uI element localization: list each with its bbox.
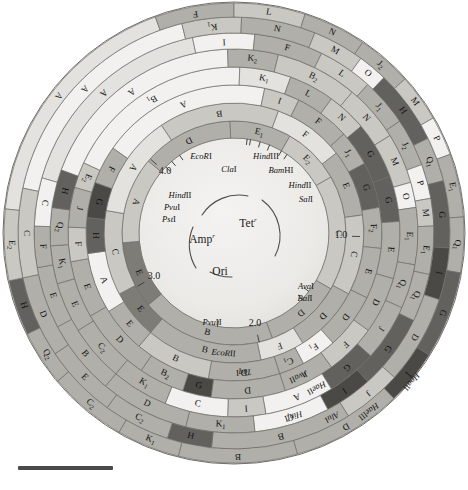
restriction-site-sali: SalI — [299, 194, 313, 204]
ring-segment-label: B — [235, 452, 241, 462]
plasmid-map-figure: DE1E2CDBEABFECDFBECAAIFJ1GF2EDF1C1DBEAHG… — [0, 0, 468, 490]
restriction-site-bamhi: BamHI — [269, 165, 294, 175]
ring-segment-label: G — [437, 211, 448, 219]
restriction-site-hindii: HindII — [168, 190, 192, 200]
ring-segment-label: D — [244, 385, 252, 396]
gene-label-amp: Ampr — [189, 232, 215, 246]
coordinate-tick-2-0: 2.0 — [249, 317, 262, 328]
restriction-site-bali: BalI — [298, 293, 313, 303]
restriction-site-ecori: EcoRI — [189, 151, 212, 161]
scale-bar — [18, 466, 113, 470]
ring-segment-label: F — [38, 243, 48, 249]
restriction-site-pvui: PvuI — [163, 202, 180, 212]
restriction-site-psti: PstI — [161, 214, 176, 224]
restriction-site-hindiii: HindIII — [252, 151, 279, 161]
coordinate-tick-1-0: 1.0 — [335, 229, 348, 240]
enzyme-ring-name-taqi: TaqI — [236, 367, 252, 378]
restriction-site-hindii: HindII — [288, 180, 312, 190]
plasmid-map-svg: DE1E2CDBEABFECDFBECAAIFJ1GF2EDF1C1DBEAHG… — [0, 0, 468, 490]
restriction-site-clai: ClaI — [221, 164, 236, 174]
ring-segment-label: C — [22, 230, 32, 236]
ring-segment-label: H — [91, 232, 101, 239]
ring-segment-label: F — [73, 241, 83, 247]
ring-segment-label: I — [222, 37, 226, 47]
ring-segment-label: B — [216, 108, 223, 119]
coordinate-tick-3-0: 3.0 — [148, 270, 161, 281]
gene-label-ori: Ori — [212, 265, 227, 277]
ring-segment-label: M — [420, 208, 431, 217]
